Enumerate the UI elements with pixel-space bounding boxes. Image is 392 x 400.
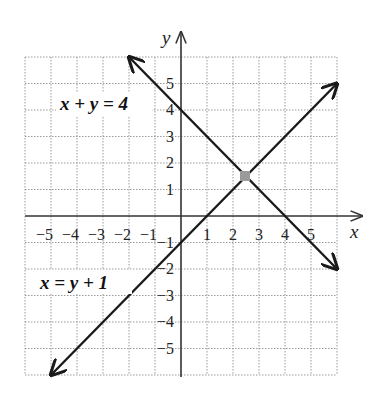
x-tick: −2 xyxy=(114,226,131,243)
y-tick: −5 xyxy=(157,340,174,357)
x-tick: 2 xyxy=(229,226,237,243)
x-tick-labels: −5 −4 −3 −2 −1 1 2 3 4 5 xyxy=(36,226,315,243)
x-tick: 1 xyxy=(203,226,211,243)
x-tick: 3 xyxy=(255,226,263,243)
y-tick: 1 xyxy=(166,181,174,198)
y-tick: −1 xyxy=(157,234,174,251)
y-tick: −4 xyxy=(157,313,174,330)
y-tick: −2 xyxy=(157,260,174,277)
x-tick: 4 xyxy=(281,226,289,243)
chart-canvas: y x −5 −4 −3 −2 −1 1 2 3 4 5 5 4 3 2 1 −… xyxy=(0,0,392,400)
x-tick: −3 xyxy=(88,226,105,243)
y-tick: −3 xyxy=(157,287,174,304)
equation-label-1: x + y = 4 xyxy=(59,93,128,114)
intersection-point xyxy=(240,171,250,181)
x-tick: −5 xyxy=(36,226,53,243)
y-tick: 4 xyxy=(166,101,174,118)
equation-label-2: x = y + 1 xyxy=(39,272,108,293)
x-tick: −4 xyxy=(62,226,79,243)
y-tick: 2 xyxy=(166,154,174,171)
y-axis-label: y xyxy=(160,27,171,48)
x-tick: −1 xyxy=(140,226,157,243)
y-tick: 3 xyxy=(166,128,174,145)
x-axis-label: x xyxy=(349,221,359,242)
y-tick: 5 xyxy=(166,75,174,92)
